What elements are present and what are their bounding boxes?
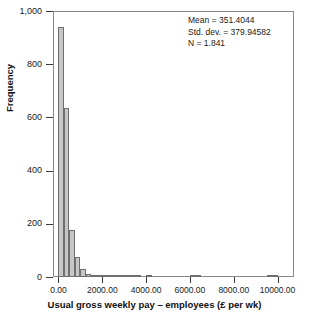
y-axis-tick-label: 800: [27, 60, 42, 69]
y-axis-title: Frequency: [4, 64, 15, 112]
x-axis-tick: [146, 277, 147, 283]
plot-area: [53, 11, 294, 277]
x-axis-tick-label: 6000.00: [175, 286, 206, 295]
x-axis-tick-label: 4000.00: [131, 286, 162, 295]
x-axis-title: Usual gross weekly pay – employees (£ pe…: [0, 299, 309, 310]
histogram-bar: [135, 275, 140, 277]
y-axis-tick: [46, 224, 53, 225]
x-axis-tick-label: 10000.00: [260, 286, 295, 295]
x-axis-tick: [278, 277, 279, 283]
std-dev-label: Std. dev. = 379.94582: [188, 27, 271, 39]
y-axis-tick: [46, 64, 53, 65]
y-axis-tick: [46, 277, 53, 278]
x-axis-tick: [58, 277, 59, 283]
x-axis-tick-label: 8000.00: [218, 286, 249, 295]
x-axis-tick-label: 0.00: [50, 286, 67, 295]
x-axis-tick: [102, 277, 103, 283]
y-axis-tick-label: 0: [37, 273, 42, 282]
histogram-bar: [195, 275, 200, 277]
y-axis-tick-label: 1,000: [19, 7, 42, 16]
x-axis-tick: [190, 277, 191, 283]
y-axis-tick: [46, 171, 53, 172]
y-axis-tick: [46, 117, 53, 118]
y-axis-tick-label: 200: [27, 219, 42, 228]
x-axis-tick-label: 2000.00: [87, 286, 118, 295]
y-axis-tick: [46, 11, 53, 12]
histogram-chart: Frequency 02004006008001,000 0.002000.00…: [0, 0, 309, 325]
y-axis-tick-label: 400: [27, 166, 42, 175]
x-axis-tick: [234, 277, 235, 283]
mean-label: Mean = 351.4044: [188, 15, 271, 27]
y-axis-tick-label: 600: [27, 113, 42, 122]
statistics-annotation: Mean = 351.4044 Std. dev. = 379.94582 N …: [188, 15, 271, 50]
n-label: N = 1.841: [188, 38, 271, 50]
